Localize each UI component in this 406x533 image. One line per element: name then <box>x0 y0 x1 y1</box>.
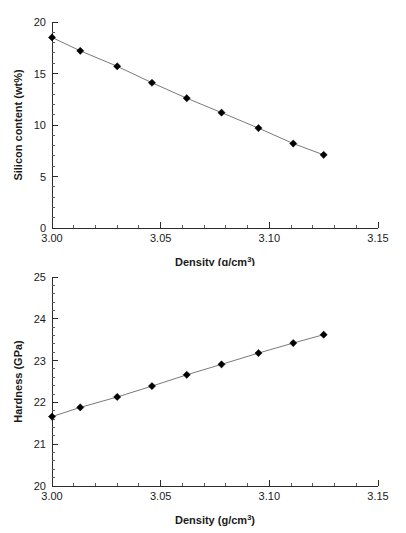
y-axis-tick-label: 10 <box>34 119 46 131</box>
y-axis-tick-label: 20 <box>34 480 46 492</box>
data-point-marker <box>183 95 190 102</box>
data-point-marker <box>255 124 262 131</box>
data-point-marker <box>114 393 121 400</box>
y-axis-title: Hardness (GPa) <box>12 340 24 423</box>
silicon-content-plot: 3.003.053.103.1505101520Density (g/cm3)S… <box>0 0 406 266</box>
data-point-marker <box>320 331 327 338</box>
data-point-marker <box>77 47 84 54</box>
data-point-marker <box>114 63 121 70</box>
data-point-marker <box>255 349 262 356</box>
y-axis-title: Silicon content (wt%) <box>12 69 24 181</box>
y-axis-tick-label: 15 <box>34 68 46 80</box>
y-axis-tick-label: 21 <box>34 438 46 450</box>
data-point-marker <box>290 140 297 147</box>
figure-two-panel-chart: 3.003.053.103.1505101520Density (g/cm3)S… <box>0 0 406 533</box>
x-axis-title: Density (g/cm3) <box>175 255 255 266</box>
data-point-marker <box>183 371 190 378</box>
data-point-marker <box>320 151 327 158</box>
x-axis-tick-label: 3.15 <box>367 490 388 502</box>
y-axis-tick-label: 22 <box>34 396 46 408</box>
data-point-marker <box>148 382 155 389</box>
y-axis-tick-label: 0 <box>40 222 46 234</box>
y-axis-tick-label: 20 <box>34 16 46 28</box>
data-point-marker <box>218 361 225 368</box>
x-axis-tick-label: 3.10 <box>259 232 280 244</box>
x-axis-tick-label: 3.15 <box>367 232 388 244</box>
hardness-plot: 3.003.053.103.15202122232425Density (g/c… <box>0 266 406 533</box>
chart-panel-silicon-content: 3.003.053.103.1505101520Density (g/cm3)S… <box>0 0 406 266</box>
y-axis-tick-label: 25 <box>34 271 46 283</box>
x-axis-tick-label: 3.10 <box>259 490 280 502</box>
x-axis-title: Density (g/cm3) <box>175 513 255 526</box>
data-point-marker <box>218 109 225 116</box>
y-axis-tick-label: 24 <box>34 313 46 325</box>
y-axis-tick-label: 23 <box>34 355 46 367</box>
data-point-marker <box>48 34 55 41</box>
data-point-marker <box>290 339 297 346</box>
x-axis-tick-label: 3.05 <box>150 232 171 244</box>
y-axis-tick-label: 5 <box>40 171 46 183</box>
data-point-marker <box>148 79 155 86</box>
x-axis-tick-label: 3.05 <box>150 490 171 502</box>
chart-panel-hardness: 3.003.053.103.15202122232425Density (g/c… <box>0 266 406 533</box>
data-point-marker <box>77 404 84 411</box>
